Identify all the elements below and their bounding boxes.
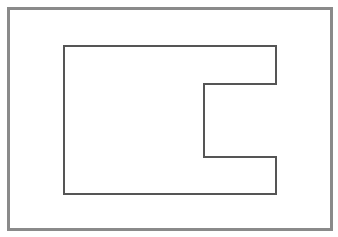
c-shaped-polygon	[64, 46, 276, 194]
diagram-canvas	[0, 0, 338, 237]
